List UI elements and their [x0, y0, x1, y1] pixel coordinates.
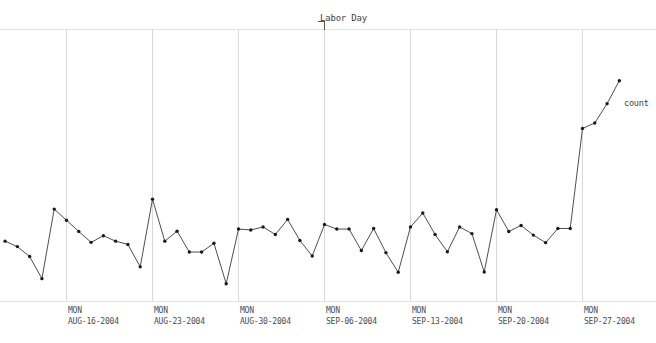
- x-tick-label-4: MON SEP-06-2004: [326, 305, 377, 327]
- data-point: [556, 227, 559, 230]
- x-tick-label-7: MON SEP-27-2004: [584, 305, 635, 327]
- gridlines-vertical: [67, 29, 583, 301]
- data-point: [225, 282, 228, 285]
- data-point: [446, 250, 449, 253]
- line-chart-plot: [0, 0, 656, 343]
- data-point: [139, 265, 142, 268]
- data-point: [360, 249, 363, 252]
- data-point: [175, 229, 178, 232]
- data-point: [77, 230, 80, 233]
- x-tick-label-2: MON AUG-23-2004: [154, 305, 205, 327]
- data-point: [53, 207, 56, 210]
- data-point: [274, 233, 277, 236]
- data-point: [483, 270, 486, 273]
- data-point: [581, 127, 584, 130]
- data-point: [261, 225, 264, 228]
- count-series-label: count: [624, 98, 649, 108]
- data-point: [212, 242, 215, 245]
- chart-container: Labor Day count MON AUG-16-2004 MON AUG-…: [0, 0, 656, 343]
- x-tick-label-6: MON SEP-20-2004: [498, 305, 549, 327]
- x-tick-dow-4: MON: [326, 305, 377, 316]
- x-tick-label-5: MON SEP-13-2004: [412, 305, 463, 327]
- x-tick-dow-6: MON: [498, 305, 549, 316]
- data-point: [470, 232, 473, 235]
- data-point: [593, 121, 596, 124]
- data-point: [384, 251, 387, 254]
- data-point: [40, 277, 43, 280]
- data-point: [249, 228, 252, 231]
- data-point: [397, 271, 400, 274]
- data-point: [89, 241, 92, 244]
- data-point: [188, 250, 191, 253]
- data-point: [421, 211, 424, 214]
- count-series-line: [5, 81, 619, 284]
- x-tick-date-7: SEP-27-2004: [584, 316, 635, 327]
- data-point: [519, 224, 522, 227]
- x-tick-label-1: MON AUG-16-2004: [68, 305, 119, 327]
- x-tick-date-1: AUG-16-2004: [68, 316, 119, 327]
- x-tick-dow-2: MON: [154, 305, 205, 316]
- data-point: [495, 208, 498, 211]
- data-point: [507, 230, 510, 233]
- data-point: [347, 227, 350, 230]
- data-point: [544, 241, 547, 244]
- data-point: [3, 239, 6, 242]
- data-point: [605, 102, 608, 105]
- data-point: [151, 197, 154, 200]
- data-point: [114, 239, 117, 242]
- data-point: [433, 233, 436, 236]
- labor-day-annotation-label: Labor Day: [320, 13, 367, 23]
- data-point: [237, 227, 240, 230]
- data-point: [298, 239, 301, 242]
- data-point: [569, 227, 572, 230]
- x-tick-date-5: SEP-13-2004: [412, 316, 463, 327]
- data-point: [286, 218, 289, 221]
- data-point: [323, 223, 326, 226]
- x-tick-date-3: AUG-30-2004: [240, 316, 291, 327]
- data-point: [200, 250, 203, 253]
- data-point: [618, 79, 621, 82]
- data-point: [372, 227, 375, 230]
- x-tick-dow-7: MON: [584, 305, 635, 316]
- x-tick-dow-1: MON: [68, 305, 119, 316]
- x-tick-dow-5: MON: [412, 305, 463, 316]
- data-point: [409, 225, 412, 228]
- x-tick-label-3: MON AUG-30-2004: [240, 305, 291, 327]
- data-point: [16, 245, 19, 248]
- data-point: [335, 227, 338, 230]
- x-tick-date-2: AUG-23-2004: [154, 316, 205, 327]
- x-tick-date-4: SEP-06-2004: [326, 316, 377, 327]
- data-point: [65, 219, 68, 222]
- data-point: [163, 239, 166, 242]
- data-point: [532, 233, 535, 236]
- data-point: [311, 254, 314, 257]
- count-series-markers: [3, 79, 621, 285]
- x-tick-dow-3: MON: [240, 305, 291, 316]
- data-point: [102, 234, 105, 237]
- data-point: [28, 255, 31, 258]
- x-tick-date-6: SEP-20-2004: [498, 316, 549, 327]
- data-point: [458, 225, 461, 228]
- data-point: [126, 243, 129, 246]
